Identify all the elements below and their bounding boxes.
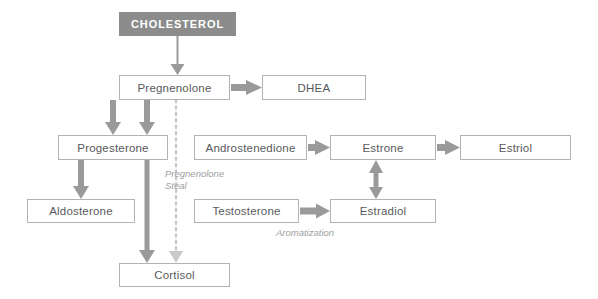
edge-pregnenolone-to-progesterone-a	[105, 100, 121, 135]
node-estradiol[interactable]: Estradiol	[330, 199, 436, 223]
node-androstenedione[interactable]: Androstenedione	[194, 135, 307, 160]
node-progesterone[interactable]: Progesterone	[58, 135, 168, 160]
node-androstenedione-label: Androstenedione	[206, 142, 296, 154]
edge-pregnenolone-to-progesterone-b	[139, 100, 155, 135]
node-cholesterol[interactable]: CHOLESTEROL	[119, 12, 236, 36]
edge-progesterone-to-aldosterone	[73, 160, 89, 199]
node-cortisol-label: Cortisol	[154, 269, 195, 281]
node-cholesterol-label: CHOLESTEROL	[131, 18, 224, 30]
node-testosterone[interactable]: Testosterone	[194, 199, 299, 223]
node-progesterone-label: Progesterone	[77, 142, 148, 154]
edge-androstenedione-to-estrone	[308, 140, 330, 155]
edge-pregnenolone-to-dhea	[231, 80, 262, 95]
pathway-diagram: CHOLESTEROL Pregnenolone DHEA Progestero…	[0, 0, 598, 299]
node-pregnenolone[interactable]: Pregnenolone	[119, 75, 230, 100]
edge-testosterone-to-estradiol	[300, 204, 330, 219]
node-aldosterone-label: Aldosterone	[49, 205, 113, 217]
edge-label-aromatization: Aromatization	[276, 227, 334, 239]
edge-cholesterol-to-pregnenolone	[171, 36, 185, 75]
edge-estrone-estradiol-bidirectional	[369, 160, 383, 199]
node-estrone[interactable]: Estrone	[330, 135, 436, 160]
edge-progesterone-to-cortisol	[139, 160, 155, 263]
node-pregnenolone-label: Pregnenolone	[137, 82, 211, 94]
edge-estrone-to-estriol	[437, 140, 460, 155]
node-estriol[interactable]: Estriol	[460, 135, 571, 160]
node-estriol-label: Estriol	[499, 142, 532, 154]
node-estradiol-label: Estradiol	[360, 205, 407, 217]
node-aldosterone[interactable]: Aldosterone	[27, 199, 135, 223]
node-cortisol[interactable]: Cortisol	[119, 263, 230, 287]
node-dhea-label: DHEA	[298, 82, 331, 94]
edge-label-pregnenolone-steal: Pregnenolone Steal	[165, 168, 224, 192]
node-testosterone-label: Testosterone	[212, 205, 280, 217]
node-dhea[interactable]: DHEA	[262, 75, 366, 100]
node-estrone-label: Estrone	[362, 142, 403, 154]
